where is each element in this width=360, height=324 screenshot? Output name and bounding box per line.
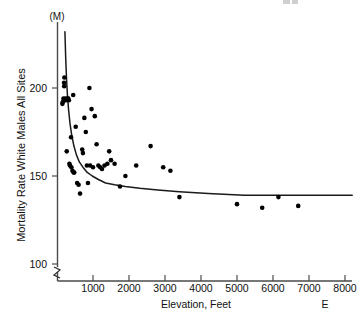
y-tick-label-200: 200: [29, 82, 47, 94]
y-axis-unit-label: (M): [50, 11, 65, 22]
data-point: [69, 135, 74, 140]
data-point: [72, 170, 77, 175]
data-point: [62, 75, 67, 80]
data-point: [177, 195, 182, 200]
data-point: [78, 191, 83, 196]
data-point: [73, 124, 78, 129]
data-point: [148, 144, 153, 149]
data-point: [112, 161, 117, 166]
data-point: [134, 163, 139, 168]
page-artifact-mark: [283, 0, 290, 4]
data-point: [84, 130, 89, 135]
x-axis-title: Elevation, Feet: [161, 298, 231, 310]
x-tick-label-1000: 1000: [81, 282, 105, 294]
data-point: [161, 165, 166, 170]
data-point: [67, 98, 72, 103]
data-point: [296, 204, 301, 209]
x-tick-label-7000: 7000: [297, 282, 321, 294]
data-point: [276, 195, 281, 200]
y-tick-label-150: 150: [29, 170, 47, 182]
data-point: [260, 205, 265, 210]
data-point: [105, 161, 110, 166]
data-point: [107, 149, 112, 154]
page-artifact-mark-2: [292, 0, 298, 4]
y-axis-title: Mortality Rate White Males All Sites: [15, 68, 27, 242]
data-point: [64, 149, 69, 154]
y-tick-label-100: 100: [29, 258, 47, 270]
x-tick-label-4000: 4000: [189, 282, 213, 294]
data-point: [235, 202, 240, 207]
x-tick-label-5000: 5000: [225, 282, 249, 294]
chart-figure: 200 150 100 1000 2000 3000 4000 5000 600…: [0, 0, 360, 324]
data-point: [81, 151, 86, 156]
x-tick-label-3000: 3000: [153, 282, 177, 294]
data-point: [71, 93, 76, 98]
data-point: [87, 86, 92, 91]
data-point: [82, 116, 87, 121]
data-point: [123, 174, 128, 179]
x-tick-label-8000: 8000: [333, 282, 357, 294]
x-tick-label-2000: 2000: [117, 282, 141, 294]
data-point: [109, 158, 114, 163]
data-point: [89, 107, 94, 112]
scatter-plot-svg: 200 150 100 1000 2000 3000 4000 5000 600…: [0, 0, 360, 324]
data-point: [118, 184, 123, 189]
data-point: [76, 183, 81, 188]
figure-corner-label: E: [321, 298, 328, 310]
x-tick-label-6000: 6000: [261, 282, 285, 294]
data-point: [91, 165, 96, 170]
data-point: [168, 168, 173, 173]
data-point: [94, 142, 99, 147]
data-point: [62, 84, 67, 89]
data-point: [86, 181, 91, 186]
data-point: [93, 114, 98, 119]
